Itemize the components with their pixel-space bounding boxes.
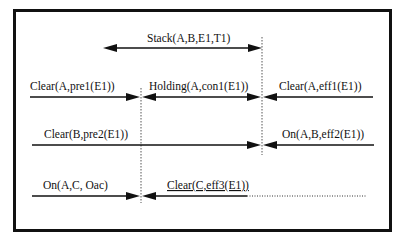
arrowhead-left-icon (263, 93, 277, 101)
arrowhead-left-icon (142, 93, 156, 101)
arrowhead-right-icon (126, 192, 140, 200)
effect-clear-a-arrow: Clear(A,eff1(E1)) (263, 80, 373, 101)
arrowhead-right-icon (248, 44, 262, 52)
condition-holding-arrow: Holding(A,con1(E1)) (142, 80, 261, 101)
holding-label: Holding(A,con1(E1)) (149, 80, 248, 93)
precondition-on-a-c-arrow: On(A,C, Oac) (32, 179, 140, 200)
clear-c-eff3-label: Clear(C,eff3(E1)) (167, 179, 249, 192)
precondition-clear-b-arrow: Clear(B,pre2(E1)) (32, 128, 261, 149)
stack-label: Stack(A,B,E1,T1) (147, 32, 231, 45)
arrowhead-right-icon (126, 93, 140, 101)
effect-clear-c-arrow: Clear(C,eff3(E1)) (142, 179, 367, 200)
effect-on-a-b-arrow: On(A,B,eff2(E1)) (263, 128, 374, 149)
arrowhead-right-icon (247, 93, 261, 101)
plan-diagram: Stack(A,B,E1,T1) Clear(A,pre1(E1)) Holdi… (0, 0, 400, 242)
clear-a-pre1-label: Clear(A,pre1(E1)) (30, 80, 115, 93)
arrowhead-left-icon (103, 44, 117, 52)
arrowhead-left-icon (142, 192, 156, 200)
arrowhead-left-icon (263, 141, 277, 149)
precondition-clear-a-arrow: Clear(A,pre1(E1)) (30, 80, 140, 101)
clear-b-pre2-label: Clear(B,pre2(E1)) (44, 128, 128, 141)
on-a-c-oac-label: On(A,C, Oac) (43, 179, 108, 192)
on-a-b-eff2-label: On(A,B,eff2(E1)) (282, 128, 364, 141)
clear-a-eff1-label: Clear(A,eff1(E1)) (279, 80, 362, 93)
arrowhead-right-icon (247, 141, 261, 149)
stack-action-arrow: Stack(A,B,E1,T1) (103, 32, 262, 52)
